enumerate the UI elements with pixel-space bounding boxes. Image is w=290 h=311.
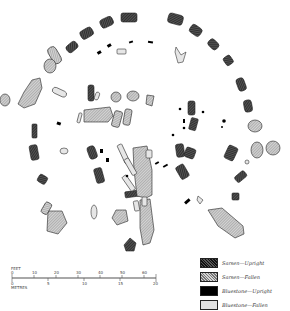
legend-label: Sarsen—Upright <box>222 260 264 266</box>
legend: Sarsen—Upright Sarsen—Fallen Bluestone—U… <box>200 256 290 311</box>
legend-label: Bluestone—Fallen <box>222 302 268 308</box>
feet-tick-60: 60 <box>142 270 148 275</box>
feet-tick-20: 20 <box>54 270 60 275</box>
legend-item-bluestone-fallen: Bluestone—Fallen <box>200 298 290 311</box>
feet-tick-40: 40 <box>98 270 104 275</box>
feet-tick-10: 10 <box>32 270 38 275</box>
feet-tick-30: 30 <box>76 270 82 275</box>
sarsen-fallen-stones <box>0 45 280 245</box>
legend-item-sarsen-fallen: Sarsen—Fallen <box>200 270 290 283</box>
sarsen-fallen-swatch-icon <box>200 272 218 282</box>
metres-tick-15: 15 <box>118 281 124 286</box>
bluestone-fallen-swatch-icon <box>200 300 218 310</box>
scale-bar: FEET 0 10 20 30 40 50 60 0 5 10 15 20 ME… <box>11 266 159 290</box>
scale-metres-label: METRES <box>11 285 28 290</box>
legend-label: Sarsen—Fallen <box>222 274 260 280</box>
legend-label: Bluestone—Upright <box>222 288 272 294</box>
bluestone-upright-swatch-icon <box>200 286 218 296</box>
legend-item-sarsen-upright: Sarsen—Upright <box>200 256 290 269</box>
metres-tick-20: 20 <box>153 281 159 286</box>
metres-tick-10: 10 <box>82 281 88 286</box>
legend-item-bluestone-upright: Bluestone—Upright <box>200 284 290 297</box>
feet-tick-50: 50 <box>120 270 126 275</box>
metres-tick-5: 5 <box>47 281 50 286</box>
sarsen-upright-swatch-icon <box>200 258 218 268</box>
